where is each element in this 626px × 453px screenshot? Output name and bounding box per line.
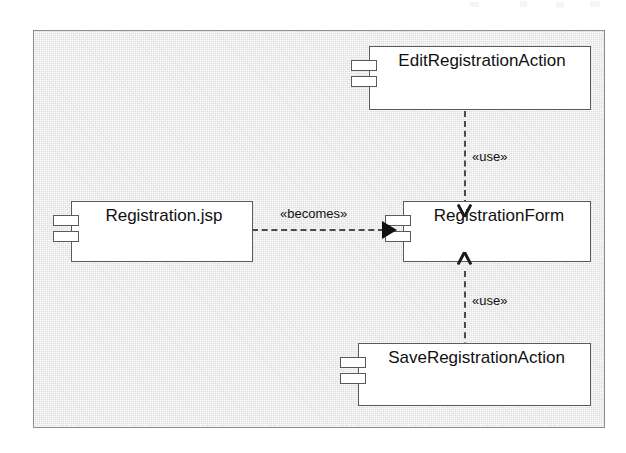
- component-registration-form[interactable]: RegistrationForm: [385, 201, 591, 262]
- component-label: EditRegistrationAction: [351, 51, 591, 71]
- diagram-canvas: «use» «becomes» «use» EditRegistrationAc…: [0, 0, 626, 453]
- scan-artifact: [556, 2, 564, 7]
- component-registration-jsp[interactable]: Registration.jsp: [53, 201, 253, 262]
- scan-artifact: [520, 1, 527, 7]
- component-icon: [351, 60, 377, 71]
- component-icon: [53, 215, 79, 226]
- component-label: SaveRegistrationAction: [340, 348, 591, 368]
- component-label: Registration.jsp: [53, 206, 253, 226]
- component-label: RegistrationForm: [385, 206, 591, 226]
- scan-artifact: [470, 2, 479, 7]
- component-edit-registration-action[interactable]: EditRegistrationAction: [351, 46, 591, 110]
- component-icon: [53, 231, 79, 242]
- connector-edit-uses-form-label: «use»: [472, 149, 507, 164]
- scan-artifact: [590, 1, 600, 7]
- component-icon: [351, 76, 377, 87]
- component-icon: [340, 373, 366, 384]
- connector-save-uses-form-label: «use»: [472, 293, 507, 308]
- component-save-registration-action[interactable]: SaveRegistrationAction: [340, 343, 591, 406]
- component-icon: [340, 357, 366, 368]
- connector-jsp-becomes-form-line: [252, 229, 384, 231]
- diagram-frame: «use» «becomes» «use» EditRegistrationAc…: [33, 30, 605, 428]
- connector-jsp-becomes-form-arrowhead: [382, 221, 397, 239]
- connector-edit-uses-form-line: [464, 111, 466, 206]
- connector-jsp-becomes-form-label: «becomes»: [280, 206, 347, 221]
